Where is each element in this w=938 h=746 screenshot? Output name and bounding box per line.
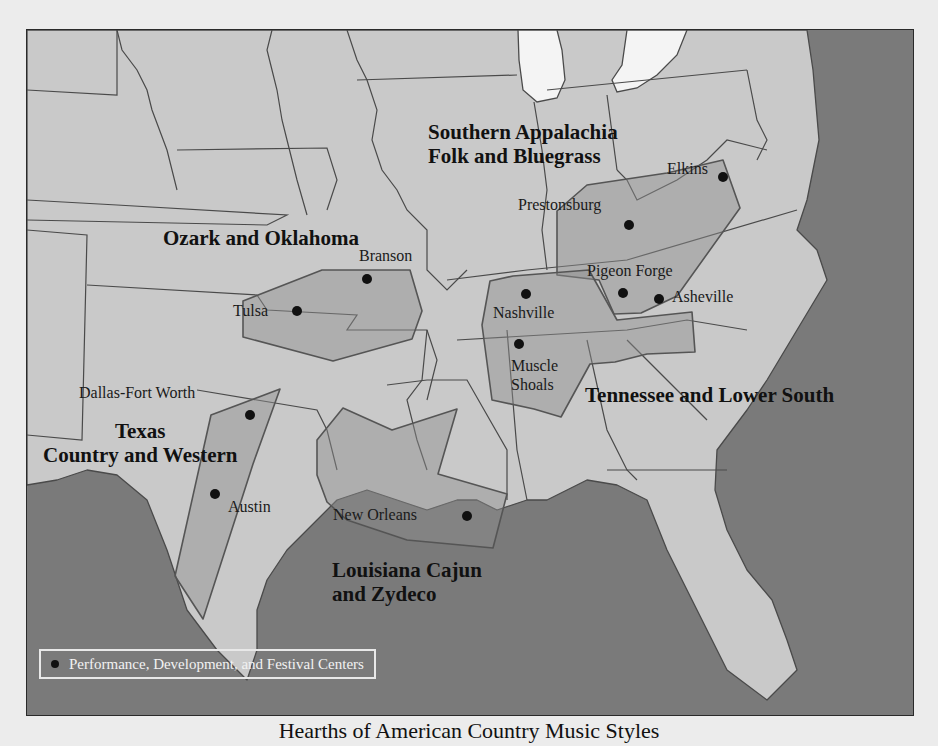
city-label-asheville: Asheville	[672, 288, 733, 306]
city-label-tulsa: Tulsa	[233, 302, 268, 320]
region-label-line: Country and Western	[43, 443, 237, 467]
city-label-branson: Branson	[359, 247, 412, 265]
region-label-texas: Texas Country and Western	[43, 419, 237, 467]
city-dot-elkins	[718, 172, 728, 182]
map-caption: Hearths of American Country Music Styles	[0, 716, 938, 746]
region-label-tennessee-lower-south: Tennessee and Lower South	[585, 383, 834, 407]
region-label-line: Southern Appalachia	[428, 120, 618, 144]
region-label-louisiana: Louisiana Cajun and Zydeco	[332, 558, 482, 606]
city-label-line: Muscle	[511, 356, 558, 375]
legend: Performance, Development, and Festival C…	[39, 649, 376, 679]
map-frame: Southern Appalachia Folk and Bluegrass O…	[26, 29, 914, 716]
city-dot-branson	[362, 274, 372, 284]
city-dot-asheville	[654, 294, 664, 304]
city-dot-pigeon-forge	[618, 288, 628, 298]
lake-michigan	[518, 30, 565, 102]
city-dot-new-orleans	[462, 511, 472, 521]
region-label-line: Texas	[43, 419, 237, 443]
region-label-line: Folk and Bluegrass	[428, 144, 618, 168]
city-dot-austin	[210, 489, 220, 499]
city-dot-tulsa	[292, 306, 302, 316]
city-label-prestonsburg: Prestonsburg	[518, 196, 601, 214]
city-label-elkins: Elkins	[667, 160, 708, 178]
city-label-line: Shoals	[511, 375, 558, 394]
region-label-southern-appalachia: Southern Appalachia Folk and Bluegrass	[428, 120, 618, 168]
legend-dot-icon	[51, 660, 59, 668]
city-label-dallas-fort-worth: Dallas-Fort Worth	[79, 384, 195, 402]
city-dot-nashville	[521, 289, 531, 299]
city-label-pigeon-forge: Pigeon Forge	[587, 262, 672, 280]
city-dot-prestonsburg	[624, 220, 634, 230]
city-dot-muscle-shoals	[514, 339, 524, 349]
city-label-new-orleans: New Orleans	[333, 506, 417, 524]
city-dot-dallas-fort-worth	[245, 410, 255, 420]
city-label-muscle-shoals: Muscle Shoals	[511, 356, 558, 394]
region-label-ozark-oklahoma: Ozark and Oklahoma	[163, 226, 359, 250]
region-label-line: Louisiana Cajun	[332, 558, 482, 582]
city-label-nashville: Nashville	[493, 304, 554, 322]
city-label-austin: Austin	[228, 498, 271, 516]
legend-label: Performance, Development, and Festival C…	[69, 656, 364, 673]
region-label-line: and Zydeco	[332, 582, 482, 606]
